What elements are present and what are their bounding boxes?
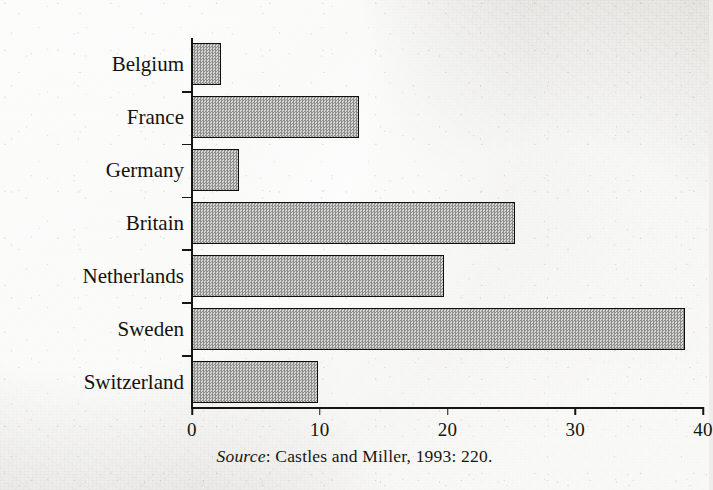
x-axis-tick-30 [575, 407, 577, 415]
x-axis-tick-label-40: 40 [693, 419, 713, 441]
bar-sweden [192, 308, 685, 350]
source-caption: Source: Castles and Miller, 1993: 220. [40, 446, 669, 467]
bar-britain [192, 202, 515, 244]
category-label-france: France [40, 105, 184, 130]
category-label-switzerland: Switzerland [40, 369, 184, 394]
bar-germany [192, 149, 239, 191]
source-separator: : [266, 446, 276, 466]
y-axis-tick [182, 144, 191, 146]
x-axis-tick-0 [191, 407, 193, 415]
x-axis-tick-label-30: 30 [565, 419, 585, 441]
horizontal-bar-chart: BelgiumFranceGermanyBritainNetherlandsSw… [40, 16, 669, 474]
category-label-belgium: Belgium [40, 52, 184, 77]
category-label-sweden: Sweden [40, 316, 184, 341]
y-axis-tick [182, 302, 191, 304]
y-axis-tick [182, 91, 191, 93]
category-label-netherlands: Netherlands [40, 263, 184, 288]
source-text: Castles and Miller, 1993: 220. [275, 446, 492, 466]
x-axis-tick-40 [702, 407, 704, 415]
x-axis-tick-20 [447, 407, 449, 415]
source-label: Source [216, 446, 265, 466]
bar-france [192, 96, 359, 138]
category-axis-labels: BelgiumFranceGermanyBritainNetherlandsSw… [40, 38, 184, 408]
category-label-britain: Britain [40, 211, 184, 236]
y-axis-tick [182, 249, 191, 251]
x-axis-tick-label-0: 0 [187, 419, 197, 441]
y-axis-tick [182, 197, 191, 199]
x-axis-tick-label-10: 10 [310, 419, 330, 441]
x-axis-tick-label-20: 20 [438, 419, 458, 441]
plot-area: 010203040 [192, 38, 703, 408]
y-axis-tick [182, 355, 191, 357]
bar-switzerland [192, 361, 318, 403]
x-axis-tick-10 [319, 407, 321, 415]
bar-netherlands [192, 255, 444, 297]
category-label-germany: Germany [40, 158, 184, 183]
bar-belgium [192, 43, 221, 85]
